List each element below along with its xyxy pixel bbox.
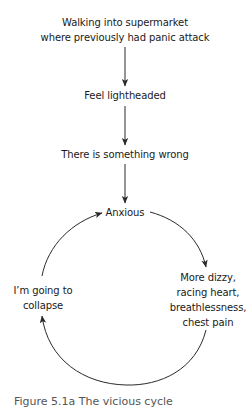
node-feel-lightheaded: Feel lightheaded [0,89,250,102]
node-collapse-line1: I’m going to [0,283,86,298]
node-symptoms-line3: breathlessness, [166,300,250,315]
node-symptoms: More dizzy, racing heart, breathlessness… [166,270,250,330]
node-trigger: Walking into supermarket where previousl… [0,16,250,44]
node-collapse-line2: collapse [0,298,86,313]
node-trigger-line1: Walking into supermarket [0,16,250,29]
node-collapse: I’m going to collapse [0,283,86,313]
arrow-collapse-to-anxious [42,213,102,276]
node-anxious: Anxious [100,206,150,219]
arrow-anxious-to-symptoms [150,212,206,267]
node-something-wrong: There is something wrong [0,148,250,161]
node-symptoms-line2: racing heart, [166,285,250,300]
node-trigger-line2: where previously had panic attack [0,31,250,44]
node-symptoms-line1: More dizzy, [166,270,250,285]
node-symptoms-line4: chest pain [166,315,250,330]
figure-caption: Figure 5.1a The vicious cycle [14,395,173,408]
